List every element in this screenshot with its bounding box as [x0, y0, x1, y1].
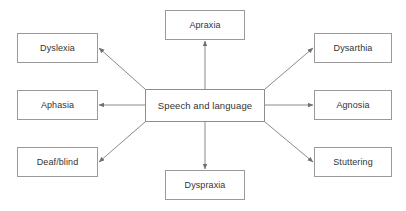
node-aphasia[interactable]: Aphasia	[17, 90, 98, 120]
diagram-canvas: Speech and language ApraxiaDyslexiaDysar…	[0, 0, 406, 211]
edge-center-to-dysarthia	[265, 48, 313, 89]
node-label-aphasia: Aphasia	[41, 101, 74, 110]
edge-center-to-deaf-blind	[99, 122, 145, 162]
node-dyspraxia[interactable]: Dyspraxia	[165, 170, 245, 200]
node-stuttering[interactable]: Stuttering	[314, 147, 392, 177]
node-label-dysarthia: Dysarthia	[334, 44, 373, 53]
node-dysarthia[interactable]: Dysarthia	[314, 33, 392, 63]
node-apraxia[interactable]: Apraxia	[165, 10, 245, 40]
node-label-dyslexia: Dyslexia	[40, 44, 75, 53]
node-label-deaf-blind: Deaf/blind	[37, 158, 79, 167]
node-agnosia[interactable]: Agnosia	[314, 90, 392, 120]
node-label-apraxia: Apraxia	[189, 21, 220, 30]
node-deaf-blind[interactable]: Deaf/blind	[17, 147, 98, 177]
node-label-dyspraxia: Dyspraxia	[185, 181, 226, 190]
node-dyslexia[interactable]: Dyslexia	[17, 33, 98, 63]
node-label-speech-and-language: Speech and language	[158, 101, 252, 111]
edge-center-to-dyslexia	[99, 48, 145, 89]
node-label-agnosia: Agnosia	[336, 101, 369, 110]
node-label-stuttering: Stuttering	[333, 158, 373, 167]
node-speech-and-language[interactable]: Speech and language	[145, 89, 265, 122]
edge-center-to-stuttering	[265, 122, 313, 162]
